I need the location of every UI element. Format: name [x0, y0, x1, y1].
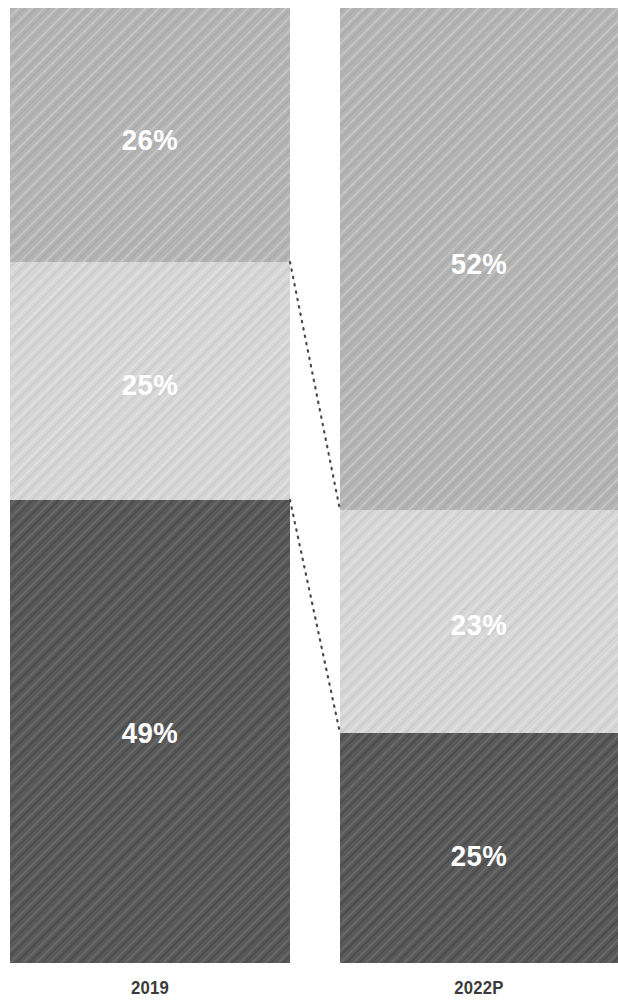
axis-label-2019: 2019: [27, 978, 273, 997]
bar-segment-label-2022p-bottom: 25%: [351, 841, 607, 871]
bar-stack-2019: 26% 25% 49%: [10, 8, 290, 963]
bar-segment-label-2019-bottom: 49%: [21, 718, 279, 748]
axis-label-2022p: 2022P: [357, 978, 602, 997]
bar-segment-label-2019-top: 26%: [21, 125, 279, 155]
stacked-bar-chart: 26% 25% 49% 2019 52% 23% 25% 2022P: [0, 0, 618, 1002]
bar-stack-2022p: 52% 23% 25%: [340, 8, 618, 963]
bar-column-2019: 26% 25% 49% 2019: [10, 0, 290, 1002]
connector-line-lower: [290, 500, 340, 733]
bar-column-2022p: 52% 23% 25% 2022P: [340, 0, 618, 1002]
connector-line-upper: [290, 262, 340, 510]
bar-segment-label-2022p-top: 52%: [351, 249, 607, 279]
bar-segment-label-2019-middle: 25%: [21, 370, 279, 400]
bar-segment-label-2022p-middle: 23%: [351, 610, 607, 640]
